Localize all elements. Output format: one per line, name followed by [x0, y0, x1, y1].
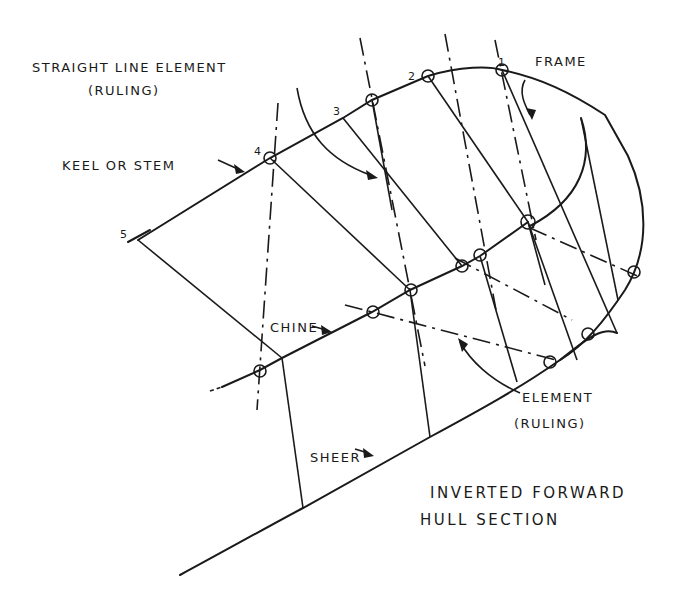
station-1-label: 1: [498, 56, 505, 69]
caption-line-1: INVERTED FORWARD: [430, 484, 626, 502]
station-5-label: 5: [120, 228, 127, 241]
label-keel-or-stem: KEEL OR STEM: [62, 158, 175, 173]
label-frame: FRAME: [535, 54, 587, 69]
station-numbers: 1 2 3 4 5: [120, 56, 505, 241]
rulings: [138, 70, 639, 508]
station-2-label: 2: [408, 70, 415, 83]
station-4-label: 4: [254, 145, 261, 158]
label-ruling-bottom: (RULING): [514, 416, 586, 431]
keel-line: [128, 68, 502, 242]
label-element: ELEMENT: [522, 390, 593, 405]
frame-lines: [257, 34, 642, 410]
label-ruling-top: (RULING): [88, 83, 160, 98]
caption-line-2: HULL SECTION: [420, 511, 560, 529]
station-3-label: 3: [333, 105, 340, 118]
label-straight-line-element: STRAIGHT LINE ELEMENT: [32, 60, 227, 75]
label-sheer: SHEER: [310, 450, 361, 465]
label-chine: CHINE: [270, 320, 318, 335]
hull-diagram: 1 2 3 4 5 STRAIGHT LINE ELEMENT (RULING)…: [0, 0, 700, 602]
